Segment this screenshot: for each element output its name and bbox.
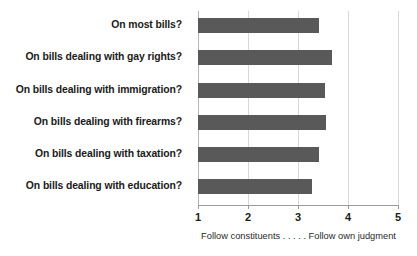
x-tick-3 [298,205,299,209]
x-tick-label-2: 2 [236,211,260,223]
x-axis-caption: Follow constituents . . . . . Follow own… [198,231,399,241]
x-tick-4 [348,205,349,209]
category-label-most-bills: On most bills? [0,19,182,31]
x-tick-label-1: 1 [186,211,210,223]
x-tick-label-3: 3 [286,211,310,223]
bar-most-bills [198,18,319,33]
x-tick-label-4: 4 [336,211,360,223]
gridline-3 [298,11,299,205]
x-tick-label-5: 5 [386,211,410,223]
gridline-1 [198,11,199,205]
plot-area [198,11,398,205]
bar-immigration [198,83,325,98]
bar-chart: On most bills? On bills dealing with gay… [0,0,417,256]
category-label-taxation: On bills dealing with taxation? [0,148,182,160]
category-label-immigration: On bills dealing with immigration? [0,84,182,96]
bar-firearms [198,115,326,130]
category-axis-labels: On most bills? On bills dealing with gay… [0,11,190,203]
category-label-gay-rights: On bills dealing with gay rights? [0,51,182,63]
category-label-education: On bills dealing with education? [0,180,182,192]
bar-gay-rights [198,50,332,65]
gridline-2 [248,11,249,205]
x-tick-2 [248,205,249,209]
category-label-firearms: On bills dealing with firearms? [0,116,182,128]
gridline-5 [398,11,399,205]
bar-education [198,179,312,194]
bar-taxation [198,147,319,162]
x-tick-1 [198,205,199,209]
gridline-4 [348,11,349,205]
x-tick-5 [398,205,399,209]
